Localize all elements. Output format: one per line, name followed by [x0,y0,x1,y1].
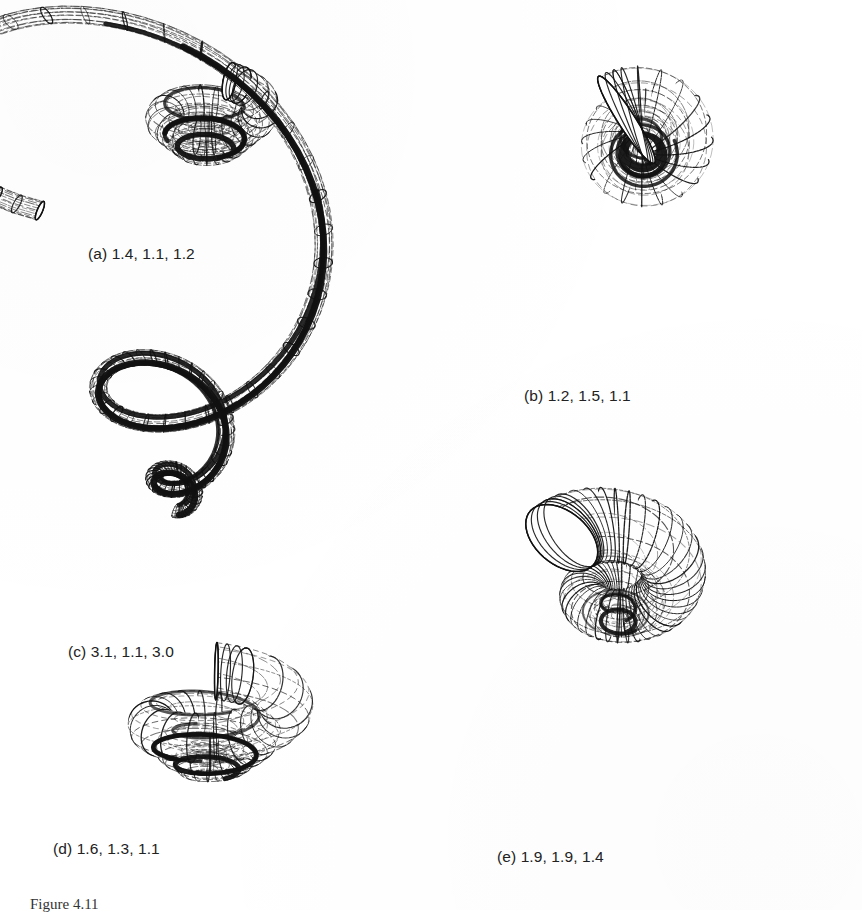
shell-panel-a [30,40,390,230]
shell-panel-e [425,498,850,828]
panel-caption-b: (b) 1.2, 1.5, 1.1 [524,387,631,404]
shell-drawing-b [490,18,820,368]
shell-drawing-c [30,385,370,625]
figure-label: Figure 4.11 [30,896,99,913]
panel-caption-e: (e) 1.9, 1.9, 1.4 [497,848,604,865]
panel-caption-d: (d) 1.6, 1.3, 1.1 [53,840,160,857]
shell-panel-b [490,18,820,368]
shell-panel-c [30,385,370,625]
panel-caption-a: (a) 1.4, 1.1, 1.2 [88,245,195,262]
panel-caption-c: (c) 3.1, 1.1, 3.0 [68,643,174,660]
shell-drawing-d [15,700,425,825]
shell-drawing-e [425,498,850,828]
shell-panel-d [15,700,425,825]
shell-drawing-a [30,40,390,230]
